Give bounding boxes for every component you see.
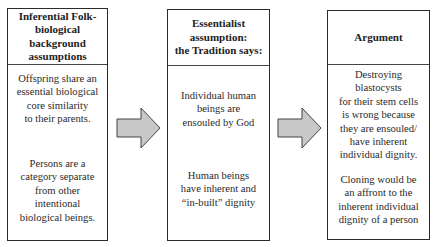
- blastocysts-argument-text: Destroying blastocysts for their stem ce…: [330, 68, 427, 162]
- argument-title: Argument: [354, 31, 402, 45]
- argument-body: Destroying blastocysts for their stem ce…: [328, 65, 429, 239]
- argument-header: Argument: [328, 11, 429, 65]
- folk-biology-box: Inferential Folk- biological background …: [7, 8, 108, 241]
- right-arrow-icon: [277, 107, 323, 149]
- persons-category-text: Persons are a category separate from oth…: [10, 157, 105, 224]
- essentialist-box: Essentialist assumption: the Tradition s…: [167, 9, 270, 241]
- essentialist-header: Essentialist assumption: the Tradition s…: [168, 10, 269, 66]
- argument-box: Argument Destroying blastocysts for thei…: [327, 10, 430, 240]
- folk-biology-title: Inferential Folk- biological background …: [19, 10, 97, 64]
- folk-biology-header: Inferential Folk- biological background …: [8, 9, 107, 65]
- cloning-argument-text: Cloning would be an affront to the inher…: [330, 173, 427, 227]
- ensouled-by-god-text: Individual human beings are ensouled by …: [170, 89, 267, 129]
- essentialist-body: Individual human beings are ensouled by …: [168, 66, 269, 240]
- offspring-similarity-text: Offspring share an essential biological …: [10, 72, 105, 126]
- folk-biology-body: Offspring share an essential biological …: [8, 65, 107, 240]
- inherent-dignity-text: Human beings have inherent and “in-built…: [170, 169, 267, 209]
- essentialist-title: Essentialist assumption: the Tradition s…: [175, 17, 263, 58]
- right-arrow-icon: [116, 107, 162, 149]
